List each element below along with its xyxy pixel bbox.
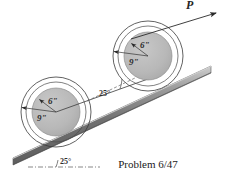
problem-figure: 6" 9" 6" 9" P 25° 25° Problem 6/47 <box>0 0 229 178</box>
force-P-label: P <box>186 0 194 12</box>
upper-wheel-radius-6-label: 6" <box>140 40 150 50</box>
lower-wheel-radius-9-label: 9" <box>37 113 47 123</box>
upper-wheel-radius-9-label: 9" <box>129 57 139 67</box>
incline-angle-upper-label: 25° <box>99 89 110 98</box>
figure-caption: Problem 6/47 <box>118 158 178 170</box>
lower-wheel-radius-6-label: 6" <box>48 96 58 106</box>
incline-angle-lower-label: 25° <box>60 157 71 166</box>
